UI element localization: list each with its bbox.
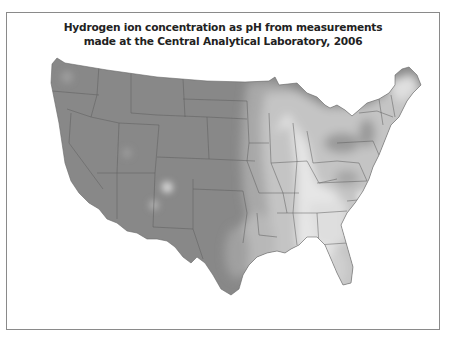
us-ph-map (7, 13, 441, 331)
ph-contours (7, 13, 441, 331)
map-frame: Hydrogen ion concentration as pH from me… (6, 12, 440, 330)
